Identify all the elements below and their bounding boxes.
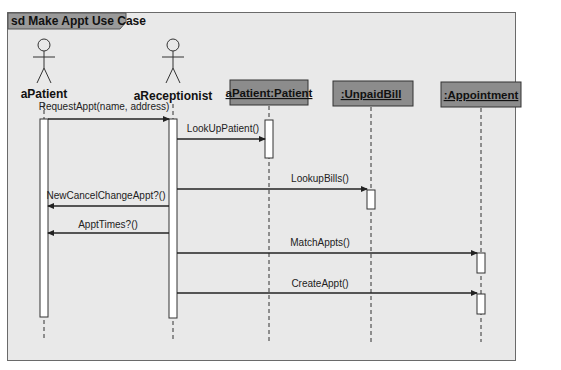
message-label: RequestAppt(name, address) — [39, 101, 170, 112]
activation-areceptionist — [169, 119, 177, 318]
stick-figure-icon — [162, 39, 184, 83]
lifeline-label: :Appointment — [444, 89, 519, 101]
activation-appointment-1 — [477, 253, 485, 273]
frame-label-tab: sd Make Appt Use Case — [8, 13, 146, 29]
activation-unpaidbill — [367, 190, 375, 209]
message-label: CreateAppt() — [291, 278, 348, 289]
actor-areceptionist: aReceptionist — [134, 39, 213, 103]
message-label: ApptTimes?() — [78, 219, 138, 230]
sequence-diagram: sd Make Appt Use Case aPatient aReceptio… — [0, 0, 561, 370]
lifeline-label: aPatient — [21, 87, 68, 101]
message-label: MatchAppts() — [290, 237, 349, 248]
object-appointment: :Appointment — [441, 82, 521, 107]
object-patient: aPatient:Patient — [226, 80, 313, 105]
messages — [48, 119, 477, 293]
lifeline-label: :UnpaidBill — [341, 88, 402, 100]
object-unpaidbill: :UnpaidBill — [333, 81, 413, 106]
stick-figure-icon — [33, 39, 55, 83]
activation-patient — [265, 120, 273, 158]
lifeline-label: aPatient:Patient — [226, 87, 313, 99]
message-label: LookupBills() — [291, 173, 349, 184]
actor-apatient: aPatient — [21, 39, 68, 101]
message-label: LookUpPatient() — [187, 123, 259, 134]
message-label: NewCancelChangeAppt?() — [47, 190, 166, 201]
frame-title: sd Make Appt Use Case — [11, 14, 146, 28]
activation-apatient — [40, 119, 48, 317]
message-labels: RequestAppt(name, address) LookUpPatient… — [39, 101, 350, 289]
activation-appointment-2 — [477, 294, 485, 314]
